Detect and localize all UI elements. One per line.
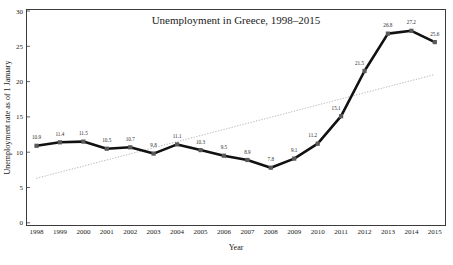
x-tick-label: 2014 <box>404 228 419 236</box>
data-point-marker <box>316 142 320 146</box>
data-value-label: 7.8 <box>268 156 275 162</box>
data-value-label: 10.3 <box>196 139 205 145</box>
data-value-label: 25.6 <box>430 31 439 37</box>
data-value-label: 10.9 <box>32 134 41 140</box>
data-value-label: 10.7 <box>126 136 135 142</box>
data-value-label: 11.5 <box>79 130 88 136</box>
chart-title: Unemployment in Greece, 1998–2015 <box>152 14 321 26</box>
x-tick-label: 2006 <box>217 228 232 236</box>
data-point-marker <box>175 142 179 146</box>
data-value-label: 27.2 <box>407 19 416 25</box>
x-tick-label: 2004 <box>170 228 185 236</box>
data-point-marker <box>386 32 390 36</box>
data-value-label: 11.2 <box>308 132 317 138</box>
data-point-marker <box>128 145 132 149</box>
x-tick-label: 2012 <box>358 228 373 236</box>
y-tick-label: 25 <box>16 43 24 51</box>
x-tick-label: 2000 <box>76 228 91 236</box>
x-tick-label: 2002 <box>123 228 138 236</box>
data-value-label: 26.8 <box>383 22 392 28</box>
data-point-marker <box>105 147 109 151</box>
x-tick-label: 2007 <box>240 228 255 236</box>
data-value-label: 21.5 <box>355 60 364 66</box>
data-point-marker <box>58 140 62 144</box>
data-point-marker <box>292 157 296 161</box>
y-tick-label: 0 <box>20 219 24 227</box>
data-point-marker <box>152 152 156 156</box>
data-value-label: 9.8 <box>150 142 157 148</box>
data-value-label: 11.4 <box>55 131 64 137</box>
x-tick-label: 2013 <box>381 228 396 236</box>
x-tick-label: 1998 <box>30 228 45 236</box>
data-point-marker <box>198 148 202 152</box>
data-point-marker <box>34 144 38 148</box>
x-tick-label: 2005 <box>194 228 209 236</box>
data-point-marker <box>81 140 85 144</box>
data-point-marker <box>409 29 413 33</box>
data-point-marker <box>269 166 273 170</box>
unemployment-line-chart: 30 25 20 15 10 5 <box>0 0 453 265</box>
data-point-marker <box>433 40 437 44</box>
data-point-marker <box>362 69 366 73</box>
y-axis-title: Unemployment rate as of 1 January <box>3 61 12 175</box>
x-tick-label: 2009 <box>287 228 302 236</box>
x-tick-label: 2003 <box>147 228 162 236</box>
y-tick-label: 30 <box>16 8 24 16</box>
x-tick-label: 2015 <box>428 228 443 236</box>
data-value-label: 8.9 <box>244 149 251 155</box>
x-tick-label: 2011 <box>334 228 348 236</box>
data-value-label: 9.1 <box>291 147 298 153</box>
data-point-marker <box>339 114 343 118</box>
data-value-label: 9.5 <box>221 144 228 150</box>
x-tick-label: 2010 <box>311 228 326 236</box>
chart-figure: 30 25 20 15 10 5 <box>0 0 453 265</box>
data-value-label: 15.1 <box>332 105 341 111</box>
y-tick-label: 5 <box>20 184 24 192</box>
data-point-marker <box>222 154 226 158</box>
x-tick-label: 2001 <box>100 228 115 236</box>
x-tick-label: 2008 <box>264 228 279 236</box>
y-tick-label: 20 <box>16 78 24 86</box>
data-value-label: 10.5 <box>102 137 111 143</box>
data-value-label: 11.1 <box>173 133 182 139</box>
x-axis-title: Year <box>229 243 244 252</box>
data-point-marker <box>245 158 249 162</box>
y-tick-label: 10 <box>16 149 24 157</box>
x-tick-label: 1999 <box>53 228 68 236</box>
y-tick-label: 15 <box>16 113 24 121</box>
